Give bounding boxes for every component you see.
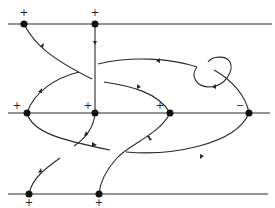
strand-lower-left-arc xyxy=(27,113,110,150)
node-t1 xyxy=(21,21,28,28)
arrow-icon xyxy=(137,84,141,89)
sign-label-m4: − xyxy=(236,100,244,111)
node-t2 xyxy=(92,21,99,28)
sign-label-m1: + xyxy=(13,100,21,111)
strand-lower-big-arc xyxy=(126,113,249,153)
strand-m3-to-b2 xyxy=(99,113,170,194)
arrow-icon xyxy=(38,88,42,93)
node-m2 xyxy=(92,110,99,117)
arrow-icon xyxy=(93,41,97,45)
strand-upper-arc-right xyxy=(98,59,197,67)
strand-small-loop xyxy=(194,57,231,87)
strand-to-b1 xyxy=(29,158,60,194)
knot-diagram: + + + + + − + + xyxy=(0,0,275,208)
sign-label-t2: + xyxy=(91,7,99,18)
sign-label-m2: + xyxy=(84,100,92,111)
node-m3 xyxy=(167,110,174,117)
sign-label-t1: + xyxy=(20,7,28,18)
strand-t1-descending xyxy=(24,24,92,79)
sign-label-b1: + xyxy=(25,197,33,208)
strand-upper-arc-left xyxy=(27,72,79,113)
sign-label-m3: + xyxy=(156,100,164,111)
arrow-icon xyxy=(200,154,204,159)
arrow-icon xyxy=(156,58,160,63)
node-m4 xyxy=(246,110,253,117)
sign-label-b2: + xyxy=(95,197,103,208)
node-m1 xyxy=(24,110,31,117)
arrow-icon xyxy=(40,43,44,48)
strand-m2-down xyxy=(74,113,95,146)
